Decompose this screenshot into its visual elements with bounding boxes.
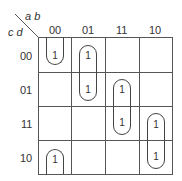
- col-header-10: 10: [149, 25, 161, 36]
- row-var-label: c d: [8, 27, 23, 38]
- cell-11-10: 1: [151, 120, 161, 130]
- row-header-11: 11: [21, 119, 32, 130]
- cell-01-11: 1: [117, 85, 127, 95]
- cell-11-11: 1: [117, 118, 127, 128]
- cell-00-01: 1: [83, 51, 93, 61]
- col-header-00: 00: [49, 25, 61, 36]
- row-header-00: 00: [20, 51, 32, 62]
- col-header-11: 11: [116, 25, 127, 36]
- row-header-10: 10: [20, 153, 32, 164]
- row-header-01: 01: [20, 85, 32, 96]
- col-var-label: a b: [25, 11, 40, 22]
- col-header-01: 01: [82, 25, 94, 36]
- cell-10-00: 1: [50, 155, 60, 165]
- cell-01-01: 1: [83, 85, 93, 95]
- cell-00-00: 1: [50, 51, 60, 61]
- cell-10-10: 1: [151, 152, 161, 162]
